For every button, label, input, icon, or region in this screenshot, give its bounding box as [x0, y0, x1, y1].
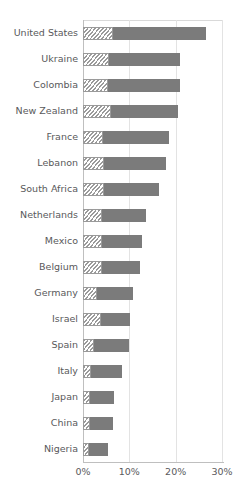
stacked-bar [83, 391, 114, 404]
category-label: Mexico [0, 228, 78, 254]
bar-row [83, 150, 222, 176]
stacked-bar [83, 261, 140, 274]
bar-row [83, 46, 222, 72]
bar-segment-solid [89, 443, 108, 456]
bar-row [83, 98, 222, 124]
category-label: Israel [0, 306, 78, 332]
category-label: Nigeria [0, 436, 78, 462]
bar-segment-hatched [83, 79, 108, 92]
category-label: Ukraine [0, 46, 78, 72]
bar-segment-hatched [83, 261, 102, 274]
bar-segment-solid [102, 209, 146, 222]
bar-segment-solid [97, 287, 133, 300]
stacked-bar [83, 209, 146, 222]
bar-row [83, 254, 222, 280]
x-axis-tick-labels: 0%10%20%30% [0, 466, 241, 482]
bar-segment-hatched [83, 183, 104, 196]
bar-segment-solid [102, 235, 143, 248]
stacked-bar [83, 287, 133, 300]
bar-segment-hatched [83, 391, 90, 404]
bar-segment-hatched [83, 235, 102, 248]
category-label: Belgium [0, 254, 78, 280]
category-label: Japan [0, 384, 78, 410]
bar-row [83, 410, 222, 436]
stacked-bar [83, 443, 108, 456]
bar-segment-solid [109, 53, 180, 66]
bar-row [83, 332, 222, 358]
category-label: China [0, 410, 78, 436]
stacked-bar [83, 339, 129, 352]
bar-segment-solid [90, 417, 113, 430]
bar-segment-solid [101, 313, 131, 326]
bar-row [83, 124, 222, 150]
x-tick-label: 20% [165, 466, 186, 477]
bar-row [83, 436, 222, 462]
bar-segment-hatched [83, 53, 109, 66]
category-label: New Zealand [0, 98, 78, 124]
bar-segment-solid [104, 157, 167, 170]
y-axis-category-labels: United StatesUkraineColombiaNew ZealandF… [0, 20, 78, 462]
stacked-bar [83, 157, 166, 170]
category-label: Colombia [0, 72, 78, 98]
bar-segment-hatched [83, 157, 104, 170]
bar-segment-solid [94, 339, 130, 352]
bar-row [83, 72, 222, 98]
bar-segment-hatched [83, 365, 91, 378]
bar-series-group [83, 20, 222, 462]
stacked-bar [83, 313, 130, 326]
stacked-bar [83, 235, 142, 248]
x-tick-label: 0% [75, 466, 90, 477]
bar-segment-hatched [83, 313, 101, 326]
category-label: Italy [0, 358, 78, 384]
bar-row [83, 306, 222, 332]
stacked-bar [83, 417, 113, 430]
stacked-bar [83, 131, 169, 144]
stacked-bar [83, 365, 122, 378]
bar-segment-hatched [83, 131, 103, 144]
bar-segment-hatched [83, 105, 111, 118]
bar-segment-solid [102, 261, 140, 274]
x-tick-label: 10% [119, 466, 140, 477]
category-label: South Africa [0, 176, 78, 202]
bar-segment-solid [91, 365, 123, 378]
bar-row [83, 358, 222, 384]
bar-segment-hatched [83, 339, 94, 352]
category-label: Netherlands [0, 202, 78, 228]
stacked-bar [83, 27, 206, 40]
bar-segment-hatched [83, 27, 113, 40]
bar-row [83, 228, 222, 254]
x-axis-line [83, 462, 224, 463]
bar-segment-hatched [83, 417, 90, 430]
category-label: Spain [0, 332, 78, 358]
category-label: Lebanon [0, 150, 78, 176]
stacked-bar [83, 53, 180, 66]
bar-segment-solid [90, 391, 115, 404]
bar-segment-solid [113, 27, 206, 40]
bar-segment-hatched [83, 287, 97, 300]
bar-row [83, 176, 222, 202]
bar-chart: United StatesUkraineColombiaNew ZealandF… [0, 0, 241, 501]
bar-row [83, 202, 222, 228]
bar-segment-solid [108, 79, 180, 92]
bar-row [83, 384, 222, 410]
x-tick-label: 30% [211, 466, 232, 477]
bar-segment-solid [111, 105, 178, 118]
bar-segment-solid [104, 183, 160, 196]
stacked-bar [83, 183, 159, 196]
bar-row [83, 280, 222, 306]
category-label: Germany [0, 280, 78, 306]
category-label: United States [0, 20, 78, 46]
bar-segment-solid [103, 131, 169, 144]
bar-row [83, 20, 222, 46]
stacked-bar [83, 79, 180, 92]
stacked-bar [83, 105, 178, 118]
category-label: France [0, 124, 78, 150]
bar-segment-hatched [83, 209, 102, 222]
gridline-30 [222, 20, 223, 462]
